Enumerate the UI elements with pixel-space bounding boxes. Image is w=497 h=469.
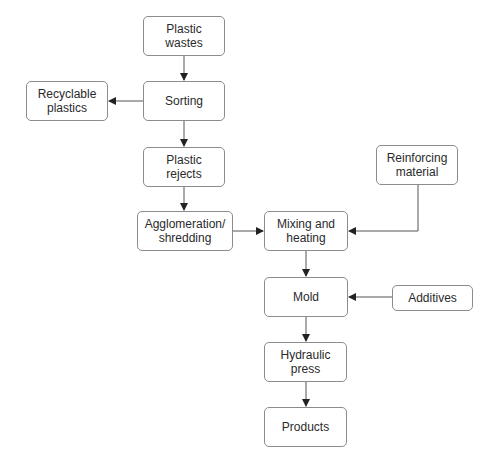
edge-reinforcing-mixing xyxy=(349,185,418,231)
node-additives: Additives xyxy=(392,285,473,311)
node-agglomeration-shredding: Agglomeration/ shredding xyxy=(137,211,233,251)
node-sorting: Sorting xyxy=(143,81,225,121)
node-reinforcing-material: Reinforcing material xyxy=(376,145,458,185)
node-mixing-heating: Mixing and heating xyxy=(264,211,348,251)
node-hydraulic-press: Hydraulic press xyxy=(264,342,347,382)
node-plastic-rejects: Plastic rejects xyxy=(143,147,225,187)
node-recyclable-plastics: Recyclable plastics xyxy=(26,81,108,121)
connector-layer xyxy=(0,0,497,469)
node-mold: Mold xyxy=(264,277,348,317)
node-products: Products xyxy=(264,407,347,447)
node-plastic-wastes: Plastic wastes xyxy=(143,16,225,56)
